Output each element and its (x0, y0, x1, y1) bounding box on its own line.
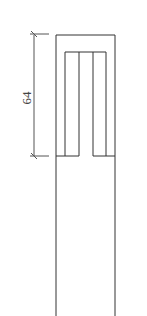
drawing-canvas (0, 0, 147, 316)
dimension-label: 64 (19, 90, 35, 106)
inner-panels (65, 52, 106, 156)
